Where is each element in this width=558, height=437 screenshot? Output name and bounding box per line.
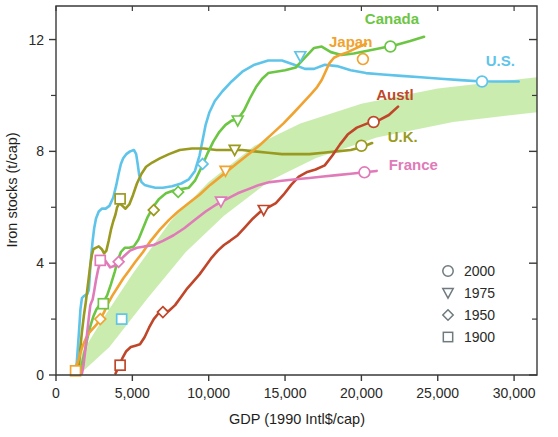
annotation-canada: Canada [365, 10, 420, 27]
marker-group-japan-2000 [358, 54, 369, 65]
marker-group-canada-1900 [98, 299, 108, 309]
marker-1900 [71, 366, 81, 376]
marker-group-us-1900 [117, 314, 127, 324]
marker-group-austl-1900 [115, 360, 125, 370]
annotation-france: France [389, 156, 438, 173]
marker-1900 [98, 299, 108, 309]
y-tick-label-8: 8 [36, 143, 44, 159]
legend-marker-2000 [443, 266, 453, 276]
marker-2000 [359, 167, 370, 178]
x-tick-label-0: 0 [52, 385, 60, 401]
marker-2000 [356, 140, 367, 151]
legend: 2000197519501900 [443, 263, 496, 345]
legend-label-1950: 1950 [464, 307, 495, 323]
chart-canvas: 05,00010,00015,00020,00025,00030,0000481… [0, 0, 558, 437]
marker-group-canada-2000 [385, 41, 396, 52]
y-tick-label-12: 12 [28, 32, 44, 48]
x-tick-label-30000: 30,000 [493, 385, 536, 401]
marker-1900 [117, 314, 127, 324]
y-axis-title: Iron stocks (t/cap) [4, 132, 20, 247]
y-tick-label-4: 4 [36, 255, 44, 271]
marker-1900 [115, 360, 125, 370]
legend-label-1975: 1975 [464, 285, 495, 301]
marker-group-austl-2000 [368, 117, 379, 128]
x-tick-label-10000: 10,000 [187, 385, 230, 401]
annotation-japan: Japan [329, 33, 372, 50]
marker-2000 [368, 117, 379, 128]
x-tick-label-5000: 5,000 [115, 385, 150, 401]
legend-label-1900: 1900 [464, 329, 495, 345]
marker-2000 [358, 54, 369, 65]
marker-group-uk-1900 [115, 194, 125, 204]
marker-2000 [385, 41, 396, 52]
marker-1950 [157, 307, 168, 318]
iron-stocks-vs-gdp-chart: 05,00010,00015,00020,00025,00030,0000481… [0, 0, 558, 437]
y-tick-label-0: 0 [36, 367, 44, 383]
marker-1900 [95, 255, 105, 265]
series-line-canada [80, 37, 424, 374]
marker-group-uk-2000 [356, 140, 367, 151]
annotation-austl: Austl [376, 86, 414, 103]
x-tick-label-15000: 15,000 [264, 385, 307, 401]
legend-marker-1975 [443, 289, 453, 299]
legend-label-2000: 2000 [464, 263, 495, 279]
x-tick-label-20000: 20,000 [340, 385, 383, 401]
marker-group-japan-1900 [71, 366, 81, 376]
annotation-uk: U.K. [388, 128, 418, 145]
x-tick-label-25000: 25,000 [416, 385, 459, 401]
marker-group-france-1900 [95, 255, 105, 265]
legend-marker-1950 [443, 310, 453, 320]
marker-group-france-2000 [359, 167, 370, 178]
legend-marker-1900 [443, 332, 452, 341]
annotation-us: U.S. [486, 52, 515, 69]
marker-1900 [115, 194, 125, 204]
x-axis-title: GDP (1990 Intl$/cap) [229, 411, 365, 427]
marker-group-austl-1950 [157, 307, 168, 318]
marker-group-us-2000 [477, 76, 488, 87]
marker-2000 [477, 76, 488, 87]
